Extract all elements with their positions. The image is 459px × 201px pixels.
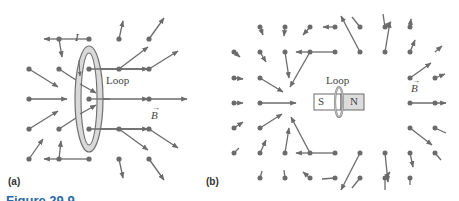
vector-arrow-icon: → [412, 76, 420, 85]
figure-caption: Figure 29.9 [6, 193, 75, 201]
loop-label-a: Loop [106, 74, 129, 86]
field-label-a: → B [151, 109, 158, 121]
current-label: I [75, 31, 79, 43]
panel-a-label: (a) [8, 176, 20, 187]
vector-arrow-icon: → [152, 103, 160, 112]
panel-b-label: (b) [206, 176, 219, 187]
loop-label-b: Loop [326, 74, 349, 86]
field-label-b: → B [411, 82, 418, 94]
magnet-north-label: N [350, 95, 358, 107]
magnetic-field-diagram [0, 0, 459, 201]
magnet-south-label: S [318, 95, 324, 107]
